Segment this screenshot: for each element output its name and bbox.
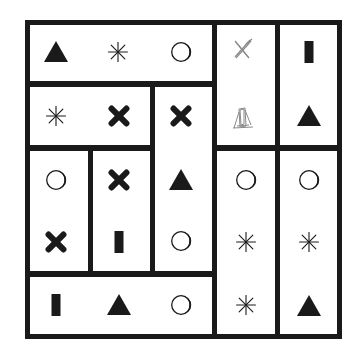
- bar-icon: [105, 228, 133, 256]
- pencil-easel-sketch-icon: [229, 104, 257, 132]
- pencil-cross-sketch-icon: [228, 35, 256, 63]
- region-col2-lower: [88, 146, 155, 276]
- puzzle-board: [0, 0, 363, 354]
- cross-icon: [168, 103, 194, 129]
- triangle-icon: [105, 291, 133, 319]
- circle-icon: [43, 167, 69, 193]
- asterisk-icon: [234, 293, 258, 317]
- circle-icon: [168, 228, 194, 254]
- triangle-icon: [42, 38, 70, 66]
- cross-icon: [43, 229, 69, 255]
- cross-icon: [106, 103, 132, 129]
- triangle-icon: [167, 166, 195, 194]
- circle-icon: [233, 167, 259, 193]
- bar-icon: [295, 38, 323, 66]
- asterisk-icon: [44, 104, 68, 128]
- circle-icon: [168, 39, 194, 65]
- bar-icon: [42, 291, 70, 319]
- triangle-icon: [295, 102, 323, 130]
- region-col1-lower: [25, 146, 93, 276]
- circle-icon: [296, 167, 322, 193]
- asterisk-icon: [297, 230, 321, 254]
- asterisk-icon: [106, 40, 130, 64]
- cross-icon: [106, 167, 132, 193]
- asterisk-icon: [234, 230, 258, 254]
- circle-icon: [168, 292, 194, 318]
- triangle-icon: [295, 292, 323, 320]
